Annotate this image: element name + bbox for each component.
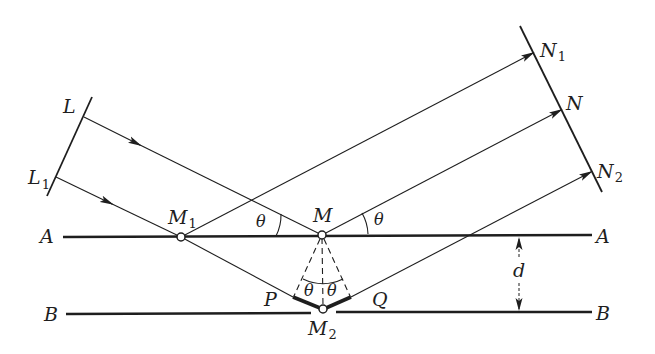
construction-lines: [294, 238, 350, 306]
point-m2: [319, 305, 327, 313]
label-m2: M2: [307, 317, 337, 342]
label-n2: N2: [596, 160, 623, 185]
point-m: [318, 231, 326, 239]
bragg-diffraction-diagram: A A B B L L1 N1 N N2: [0, 0, 655, 354]
theta-bottom-left: θ: [304, 281, 314, 300]
reflected-wavefront: N1 N N2: [520, 26, 623, 192]
label-n1: N1: [539, 39, 566, 64]
label-l: L: [62, 95, 76, 117]
theta-right: θ: [374, 210, 384, 229]
reflected-rays: [181, 53, 591, 297]
label-l1: L1: [27, 166, 50, 192]
plane-b-label-left: B: [43, 303, 58, 325]
incident-rays: [56, 117, 322, 297]
label-m: M: [312, 204, 333, 226]
label-q: Q: [372, 288, 388, 310]
point-m1: [177, 233, 185, 241]
plane-b-label-right: B: [595, 302, 610, 324]
label-m1: M1: [167, 206, 197, 231]
label-p: P: [263, 288, 278, 310]
plane-a-label-left: A: [38, 225, 54, 247]
incident-wavefront: L L1: [27, 95, 92, 196]
spacing-indicator: d: [513, 237, 525, 311]
label-d: d: [513, 259, 525, 281]
theta-bottom-right: θ: [327, 281, 337, 300]
label-n: N: [565, 92, 584, 114]
theta-left: θ: [256, 212, 266, 231]
plane-a-label-right: A: [594, 225, 610, 247]
point-labels: M1 M M2 P Q: [167, 204, 388, 342]
